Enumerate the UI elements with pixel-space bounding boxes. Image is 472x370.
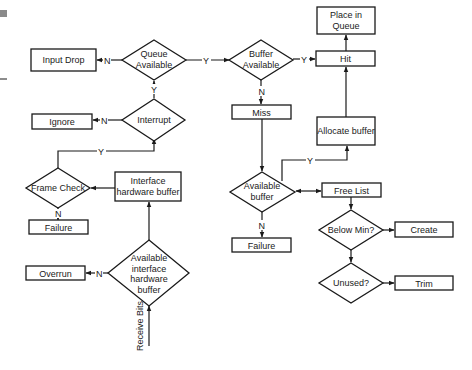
svg-text:Failure: Failure (45, 223, 73, 233)
svg-text:Unused?: Unused? (333, 278, 369, 288)
label-queue-n: N (104, 56, 111, 66)
svg-text:Free List: Free List (334, 186, 370, 196)
node-create: Create (395, 222, 453, 237)
node-place-in-queue: Place in Queue (317, 7, 375, 34)
svg-text:Hit: Hit (340, 54, 351, 64)
svg-text:Ignore: Ignore (49, 117, 75, 127)
svg-text:Create: Create (410, 225, 437, 235)
node-allocate-buffer: Allocate buffer (317, 117, 375, 145)
label-overrun-n: N (96, 269, 103, 279)
label-interrupt-y: Y (151, 85, 157, 95)
svg-text:buffer: buffer (251, 192, 274, 202)
node-interrupt: Interrupt (122, 99, 185, 141)
node-buffer-available: Buffer Available (229, 40, 293, 80)
edge-artifact-square (0, 10, 7, 17)
label-receive-bits: Receive Bits (135, 300, 145, 351)
svg-text:Interface: Interface (130, 176, 165, 186)
node-failure-left: Failure (29, 220, 88, 234)
svg-text:Overrun: Overrun (39, 269, 72, 279)
node-available-buffer: Available buffer (230, 172, 295, 212)
svg-text:Interrupt: Interrupt (137, 115, 171, 125)
svg-text:Below Min?: Below Min? (328, 225, 375, 235)
node-failure-right: Failure (232, 238, 291, 252)
svg-text:Available: Available (136, 60, 172, 70)
node-unused: Unused? (319, 263, 383, 303)
svg-text:Available: Available (131, 253, 167, 263)
label-framecheck-y: Y (98, 147, 104, 157)
svg-text:hardware: hardware (130, 274, 168, 284)
node-overrun: Overrun (26, 266, 85, 280)
svg-text:Failure: Failure (248, 241, 276, 251)
label-buffer-n: N (259, 87, 266, 97)
node-available-interface-hardware-buffer: Available interface hardware buffer (108, 240, 189, 306)
svg-text:Buffer: Buffer (249, 49, 273, 59)
label-buffer-y: Y (301, 55, 307, 65)
node-frame-check: Frame Check (26, 168, 90, 208)
label-interrupt-n: N (101, 116, 108, 126)
svg-text:Available: Available (244, 181, 280, 191)
svg-text:Input Drop: Input Drop (42, 55, 84, 65)
svg-text:Allocate buffer: Allocate buffer (317, 126, 374, 136)
node-ignore: Ignore (32, 114, 92, 129)
flowchart-canvas: N Y N Y N Y N Y Y N Y N Receive Bits Inp… (0, 0, 472, 370)
svg-text:Miss: Miss (252, 108, 271, 118)
svg-text:Available: Available (243, 60, 279, 70)
label-availbuffer-n: N (259, 221, 266, 231)
node-free-list: Free List (322, 183, 381, 197)
svg-text:Trim: Trim (415, 279, 433, 289)
svg-text:buffer: buffer (138, 285, 161, 295)
node-trim: Trim (395, 276, 453, 290)
svg-text:Place in: Place in (330, 10, 362, 20)
node-interface-hardware-buffer: Interface hardware buffer (115, 172, 181, 201)
node-queue-available: Queue Available (122, 40, 186, 80)
svg-text:interface: interface (132, 264, 167, 274)
node-input-drop: Input Drop (31, 49, 96, 71)
svg-text:Frame Check: Frame Check (31, 183, 86, 193)
label-queue-y: Y (203, 56, 209, 66)
svg-text:hardware buffer: hardware buffer (117, 187, 180, 197)
node-below-min: Below Min? (319, 210, 383, 250)
svg-text:Queue: Queue (332, 21, 359, 31)
label-availbuffer-y: Y (307, 156, 313, 166)
svg-text:Queue: Queue (140, 49, 167, 59)
label-framecheck-n: N (55, 209, 62, 219)
node-hit: Hit (316, 51, 375, 66)
node-miss: Miss (232, 105, 291, 119)
